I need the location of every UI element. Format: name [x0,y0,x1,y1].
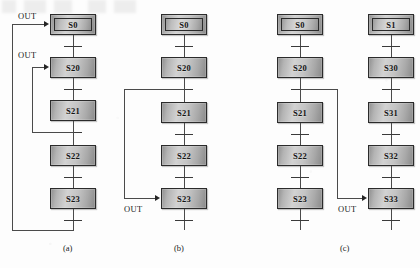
state-label: S30 [384,63,398,73]
state-box-s22-a[interactable]: S22 [50,145,96,166]
initial-state-inner-frame: S0 [281,18,319,31]
transition-bar-s23-exit-c [291,220,309,221]
feedback-wire-a1-top [12,24,45,25]
state-label: S20 [177,63,191,73]
state-box-s21-c[interactable]: S21 [277,102,323,123]
state-box-s20-a[interactable]: S20 [50,57,96,78]
state-box-s21-b[interactable]: S21 [161,102,207,123]
transition-bar-s0-s20-c [291,46,309,47]
branch-wire-b-bottom [124,198,156,199]
state-label: S1 [386,20,395,30]
branch-arrow-b-to-s23 [155,195,160,201]
transition-bar-s22-s23-a [64,177,82,178]
out-label-a1: OUT [18,11,36,21]
state-box-s0-a[interactable]: S0 [50,14,96,35]
state-label: S21 [293,108,307,118]
transition-bar-s20-s21-a [64,89,82,90]
transition-bar-s33-exit-c [382,220,400,221]
state-label: S0 [179,20,188,30]
branch-wire-c-drop [337,89,338,198]
out-label-c1: OUT [338,204,356,214]
state-box-s33-c[interactable]: S33 [368,188,414,209]
branch-wire-b-top [124,89,185,90]
state-label: S22 [177,151,191,161]
feedback-wire-a1-bottom [12,230,74,231]
feedback-wire-a1-riser [12,24,13,231]
feedback-wire-a2-riser [32,67,33,133]
paper-texture [0,0,420,268]
branch-wire-c-bottom [337,198,363,199]
state-box-s23-b[interactable]: S23 [161,188,207,209]
state-label: S23 [177,194,191,204]
state-label: S0 [68,20,77,30]
state-box-s30-c[interactable]: S30 [368,57,414,78]
state-label: S31 [384,108,398,118]
state-box-s23-a[interactable]: S23 [50,188,96,209]
state-label: S21 [177,108,191,118]
out-label-a2: OUT [18,50,36,60]
sfc-figure: S0 S20 S21 S22 S23 OUT [0,0,420,268]
initial-state-inner-frame: S0 [165,18,203,31]
state-box-s22-c[interactable]: S22 [277,145,323,166]
state-box-s0-b[interactable]: S0 [161,14,207,35]
feedback-wire-a2-bottom [32,132,74,133]
link-s20-s21-c [300,78,301,102]
state-label: S20 [293,63,307,73]
initial-state-inner-frame: S0 [54,18,92,31]
state-label: S22 [293,151,307,161]
state-box-s32-c[interactable]: S32 [368,145,414,166]
transition-bar-s0-s20-b [175,46,193,47]
transition-bar-s23-exit-b [175,220,193,221]
link-s30-s31-c [391,78,392,102]
transition-bar-s0-s20-a [64,46,82,47]
state-label: S23 [66,194,80,204]
feedback-arrow-a2-to-s20 [44,64,49,70]
state-box-s22-b[interactable]: S22 [161,145,207,166]
transition-bar-s1-s30-c [382,46,400,47]
state-box-s31-c[interactable]: S31 [368,102,414,123]
state-label: S20 [66,63,80,73]
state-box-s1-c[interactable]: S1 [368,14,414,35]
state-label: S23 [293,194,307,204]
state-box-s23-c[interactable]: S23 [277,188,323,209]
transition-bar-s30-s31-c [382,89,400,90]
caption-panel-a: (a) [63,243,72,253]
branch-arrow-c-to-s33 [362,195,367,201]
state-label: S21 [66,106,80,116]
feedback-arrow-a1-to-s0 [44,21,49,27]
state-box-s0-c[interactable]: S0 [277,14,323,35]
branch-wire-b-drop [124,89,125,198]
out-label-b1: OUT [124,204,142,214]
transition-bar-s21-s22-c [291,134,309,135]
state-label: S22 [66,151,80,161]
transition-bar-s22-s23-c [291,177,309,178]
state-box-s20-c[interactable]: S20 [277,57,323,78]
state-label: S32 [384,151,398,161]
link-s20-s21-b [184,78,185,102]
state-label: S33 [384,194,398,204]
transition-bar-s22-s23-b [175,177,193,178]
transition-bar-s31-s32-c [382,134,400,135]
transition-bar-s21-s22-b [175,134,193,135]
branch-wire-c-top [300,89,338,90]
caption-panel-b: (b) [174,243,184,253]
link-s21-s22-a [73,121,74,145]
transition-bar-s23-exit-a [64,220,82,221]
caption-panel-c: (c) [340,243,349,253]
state-box-s21-a[interactable]: S21 [50,100,96,121]
transition-bar-s32-s33-c [382,177,400,178]
state-label: S0 [295,20,304,30]
initial-state-inner-frame: S1 [372,18,410,31]
state-box-s20-b[interactable]: S20 [161,57,207,78]
